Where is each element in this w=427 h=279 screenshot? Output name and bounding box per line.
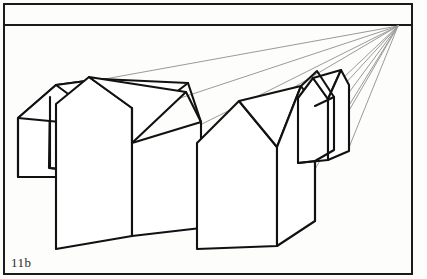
perspective-drawing bbox=[0, 0, 427, 279]
figure-page: 11b bbox=[0, 0, 427, 279]
figure-caption: 11b bbox=[11, 256, 32, 269]
house-front-left-side-wall bbox=[132, 122, 201, 236]
house-front-left-gable-face bbox=[56, 77, 132, 249]
